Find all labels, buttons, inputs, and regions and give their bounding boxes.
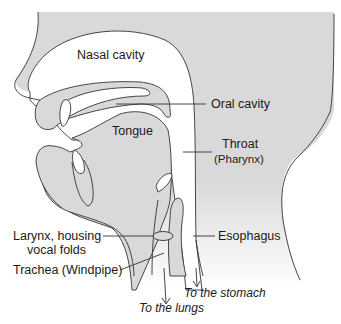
label-throat: Throat [222,137,258,152]
label-trachea: Trachea (Windpipe) [13,263,122,278]
label-oral-cavity: Oral cavity [211,97,270,112]
label-larynx: Larynx, housing [13,229,101,244]
vocal-tract-diagram: Nasal cavity Oral cavity Tongue Throat (… [0,0,341,324]
label-nasal-cavity: Nasal cavity [77,48,144,63]
label-pharynx: (Pharynx) [214,152,264,167]
label-esophagus: Esophagus [218,229,281,244]
larynx-vocal-folds [153,232,173,241]
label-vocal-folds: vocal folds [27,243,86,258]
label-to-the-stomach: To the stomach [184,286,266,301]
label-to-the-lungs: To the lungs [139,301,204,316]
label-tongue: Tongue [112,124,153,139]
